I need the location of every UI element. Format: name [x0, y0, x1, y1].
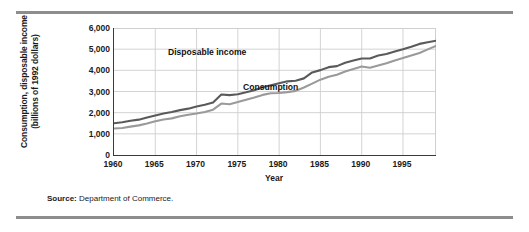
x-axis-title: Year: [113, 173, 435, 183]
figure-container: Consumption, disposable income (billions…: [0, 0, 529, 232]
series-label-disposable-income: Disposable income: [168, 47, 246, 57]
y-tick-label: 5,000: [89, 44, 110, 54]
y-axis-title-line1: Consumption, disposable income: [19, 15, 29, 148]
y-axis-title: Consumption, disposable income (billions…: [19, 12, 40, 152]
y-tick-label: 2,000: [89, 108, 110, 118]
series-label-consumption: Consumption: [243, 82, 298, 92]
x-axis-tick-labels: 19601965197019751980198519901995: [113, 159, 435, 173]
x-tick-label: 1985: [310, 159, 329, 169]
source-note-label: Source:: [47, 194, 77, 203]
x-tick-label: 1970: [186, 159, 205, 169]
x-tick-label: 1995: [393, 159, 412, 169]
y-tick-label: 3,000: [89, 87, 110, 97]
x-tick-label: 1980: [269, 159, 288, 169]
x-tick-label: 1960: [104, 159, 123, 169]
x-tick-label: 1975: [227, 159, 246, 169]
line-chart: Consumption, disposable income (billions…: [0, 16, 529, 176]
x-tick-label: 1965: [145, 159, 164, 169]
y-tick-label: 4,000: [89, 65, 110, 75]
y-axis-title-line2: (billions of 1992 dollars): [29, 12, 40, 152]
x-tick-label: 1990: [351, 159, 370, 169]
y-tick-label: 6,000: [89, 23, 110, 33]
bottom-divider-rule: [16, 216, 513, 219]
source-note: Source: Department of Commerce.: [47, 194, 173, 203]
plot-area: [113, 28, 436, 156]
top-divider-rule: [16, 11, 513, 14]
source-note-text: Department of Commerce.: [79, 194, 173, 203]
y-axis-tick-labels: 01,0002,0003,0004,0005,0006,000: [74, 16, 110, 156]
y-tick-label: 1,000: [89, 129, 110, 139]
